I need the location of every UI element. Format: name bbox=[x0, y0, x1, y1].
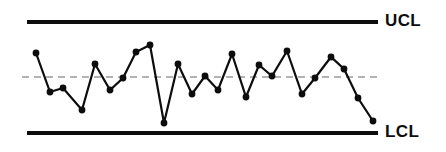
data-point bbox=[79, 107, 86, 114]
control-chart: UCL LCL bbox=[0, 0, 446, 152]
data-point bbox=[202, 73, 209, 80]
data-point bbox=[215, 87, 222, 94]
data-point bbox=[284, 48, 291, 55]
data-point bbox=[60, 85, 67, 92]
data-point bbox=[299, 91, 306, 98]
control-chart-canvas bbox=[0, 0, 446, 152]
process-measurement-line bbox=[36, 45, 373, 123]
data-point bbox=[229, 51, 236, 58]
data-point bbox=[312, 75, 319, 82]
data-point bbox=[33, 50, 40, 57]
data-point bbox=[328, 54, 335, 61]
data-point bbox=[161, 120, 168, 127]
data-point bbox=[133, 49, 140, 56]
process-measurement-points bbox=[33, 42, 377, 127]
data-point bbox=[175, 61, 182, 68]
data-point bbox=[370, 118, 377, 125]
data-point bbox=[341, 66, 348, 73]
data-point bbox=[107, 87, 114, 94]
data-point bbox=[147, 42, 154, 49]
data-point bbox=[92, 61, 99, 68]
data-point bbox=[189, 91, 196, 98]
data-point bbox=[243, 94, 250, 101]
data-point bbox=[47, 89, 54, 96]
data-point bbox=[256, 62, 263, 69]
data-point bbox=[269, 73, 276, 80]
data-point bbox=[120, 75, 127, 82]
data-point bbox=[355, 95, 362, 102]
lower-control-limit-label: LCL bbox=[385, 123, 419, 140]
upper-control-limit-label: UCL bbox=[385, 12, 421, 29]
